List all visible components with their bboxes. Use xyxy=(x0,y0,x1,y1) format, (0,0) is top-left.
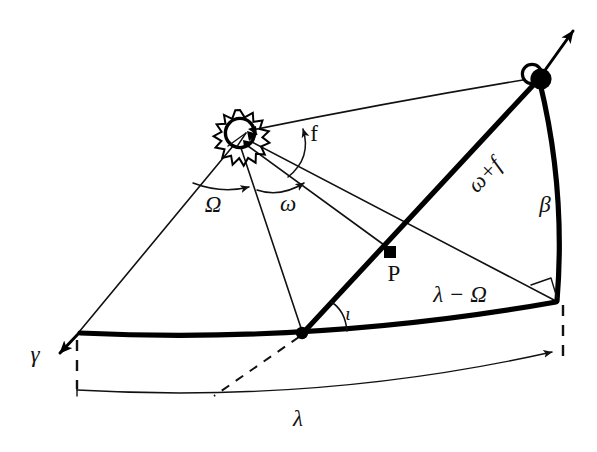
label-point-p: P xyxy=(388,261,401,286)
sun-to-foot-line xyxy=(248,140,554,300)
orbit-arc xyxy=(303,80,538,333)
ascending-node-marker xyxy=(296,327,308,339)
point-p-marker xyxy=(384,246,396,258)
label-argument-of-perihelion: ω xyxy=(280,191,296,216)
label-true-anomaly: f xyxy=(310,121,318,146)
orbital-elements-diagram: Ω ω f ι β λ λ − Ω ω+f γ P xyxy=(0,0,597,452)
dashed-node-projection xyxy=(214,337,299,396)
lambda-measure-arc xyxy=(77,352,552,396)
sun-to-ascending-node-line xyxy=(239,142,302,331)
orbit-direction-arrow xyxy=(543,31,573,73)
label-longitude-of-ascending-node: Ω xyxy=(205,192,222,217)
sun-to-body-line xyxy=(247,78,535,131)
angle-arc-true-anomaly xyxy=(288,129,305,177)
label-vernal-equinox: γ xyxy=(30,342,40,367)
label-ecliptic-longitude: λ xyxy=(292,406,303,431)
label-inclination: ι xyxy=(345,303,350,324)
sun-symbol xyxy=(214,110,270,166)
figure-canvas: Ω ω f ι β λ λ − Ω ω+f γ P xyxy=(0,0,597,452)
sun-to-vernal-equinox-line xyxy=(79,140,238,332)
label-ecliptic-latitude: β xyxy=(538,192,551,217)
label-longitude-minus-node: λ − Ω xyxy=(432,282,487,307)
